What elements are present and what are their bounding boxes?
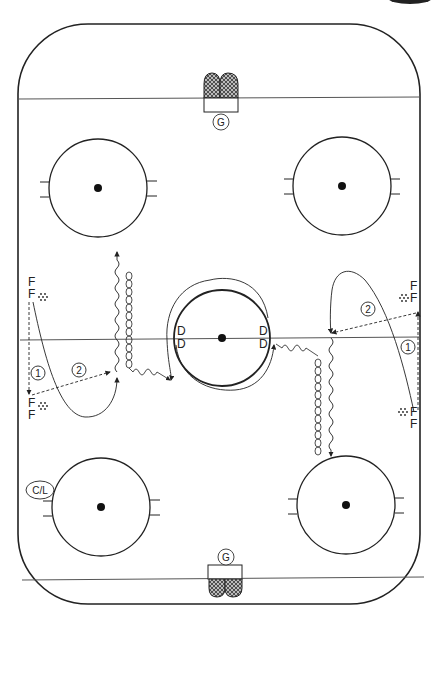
svg-text:2: 2 bbox=[365, 304, 371, 315]
svg-text:G: G bbox=[217, 117, 225, 128]
hockey-rink-diagram: G G D D D D bbox=[0, 0, 441, 674]
svg-text:D: D bbox=[177, 324, 186, 338]
svg-text:D: D bbox=[177, 337, 186, 351]
svg-text:G: G bbox=[222, 552, 230, 563]
step-2-right: 2 bbox=[361, 302, 375, 316]
forwards-right: F F F F bbox=[398, 279, 417, 431]
puck-carry-path-right bbox=[329, 338, 333, 456]
backward-skate-path-left bbox=[126, 272, 170, 380]
faceoff-circle-top-right bbox=[284, 137, 400, 235]
svg-text:F: F bbox=[28, 408, 35, 422]
svg-text:C/L: C/L bbox=[32, 485, 48, 496]
svg-text:F: F bbox=[28, 287, 35, 301]
svg-text:D: D bbox=[259, 324, 268, 338]
svg-text:F: F bbox=[410, 417, 417, 431]
forwards-left: F F F F bbox=[28, 275, 48, 422]
bottom-net bbox=[208, 565, 242, 597]
goalie-top: G bbox=[213, 114, 229, 130]
svg-text:2: 2 bbox=[76, 365, 82, 376]
svg-text:F: F bbox=[410, 291, 417, 305]
puck-carry-path-left bbox=[115, 252, 119, 372]
puck-cluster-icon bbox=[398, 408, 408, 416]
svg-text:D: D bbox=[259, 337, 268, 351]
coach-label: C/L bbox=[26, 481, 54, 499]
skate-path-left bbox=[33, 302, 117, 417]
faceoff-circle-top-left bbox=[40, 139, 157, 237]
page-corner-mark bbox=[388, 0, 432, 4]
goalie-bottom: G bbox=[218, 549, 234, 565]
pass-path-right-2 bbox=[332, 313, 416, 333]
puck-cluster-icon bbox=[399, 294, 409, 302]
svg-text:1: 1 bbox=[35, 368, 41, 379]
top-net bbox=[204, 73, 238, 112]
step-2-left: 2 bbox=[72, 363, 86, 377]
puck-cluster-icon bbox=[38, 402, 48, 410]
svg-text:1: 1 bbox=[405, 342, 411, 353]
puck-cluster-icon bbox=[38, 293, 48, 301]
faceoff-circle-bottom-left bbox=[43, 458, 160, 556]
step-1-right: 1 bbox=[401, 340, 415, 354]
skate-path-right bbox=[330, 271, 414, 412]
faceoff-circle-bottom-right bbox=[288, 456, 404, 554]
backward-skate-path-right bbox=[276, 344, 321, 455]
step-1-left: 1 bbox=[31, 366, 45, 380]
